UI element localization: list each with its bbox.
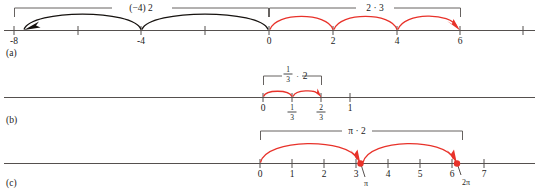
panel-a-label-2: 2 [331,36,336,46]
panel-b-frac1-denominator: 3 [290,113,294,122]
panel-b-expression: 1 3 · 2 [284,65,308,84]
panel-c-label-twopi: 2π [462,178,470,187]
panel-c-label-3: 3 [354,169,359,179]
number-line-multiplication-figure: -8 -4 0 2 4 6 (−4) 2 2 · 3 [0,0,539,189]
panel-a-red-arc-hop-2 [334,16,397,29]
panel-a-label-0: 0 [267,36,272,46]
panel-a-label-4: 4 [395,36,400,46]
panel-c-expression: π · 2 [348,126,366,136]
panel-c-label-6: 6 [450,169,455,179]
panel-c-dot-twopi [454,160,460,166]
panel-b-frac2-denominator: 3 [319,113,323,122]
panel-c-label-2: 2 [322,169,327,179]
panel-b-frac2-numerator: 2 [319,103,323,112]
panel-c-label-pi: π [364,179,368,188]
panel-c-label-0: 0 [258,169,263,179]
panel-b-expr-numerator: 1 [286,65,290,74]
panel-b-label-0: 0 [261,103,266,113]
panel-a-label-neg8: -8 [10,36,18,46]
panel-b-label-two-thirds: 2 3 [317,103,326,122]
panel-c-label-7: 7 [482,169,487,179]
panel-a-label-6: 6 [458,36,463,46]
panel-c-red-arc-hop-2 [363,144,454,163]
panel-c: 0 1 2 3 4 5 6 7 π 2π π · 2 [4,126,535,188]
panel-b-label-one-third: 1 3 [288,103,297,122]
panel-b-bracket [264,76,322,85]
panel-c-label-1: 1 [290,169,295,179]
panel-b-caption: (b) [6,115,17,125]
panel-a-arc-hop-2 [24,14,141,29]
panel-a-label-neg4: -4 [137,36,145,46]
panel-b-red-arc-hop-1 [264,91,293,96]
panel-b-expr-denominator: 3 [286,75,290,84]
panel-a-arrowhead-red [447,19,460,31]
panel-c-twopi-leader [458,166,461,175]
panel-b-frac1-numerator: 1 [290,103,294,112]
panel-a: -8 -4 0 2 4 6 (−4) 2 2 · 3 [4,3,535,46]
panel-c-label-5: 5 [418,169,423,179]
panel-b-expr-count: 2 [303,71,308,81]
panel-c-pi-leader [362,166,366,177]
panel-c-caption: (c) [6,178,17,188]
panel-a-red-arc-hop-1 [270,16,333,29]
panel-c-red-arc-hop-1 [261,144,358,163]
panel-b-arrowhead-red [313,89,322,98]
figure-canvas: -8 -4 0 2 4 6 (−4) 2 2 · 3 [0,0,539,189]
panel-b-label-1: 1 [348,103,353,113]
panel-a-caption: (a) [6,48,17,58]
panel-b-red-arc-hop-2 [293,91,318,97]
panel-b: 0 1 1 3 2 3 1 3 · 2 [4,65,535,122]
panel-b-expr-dot: · [296,72,299,81]
panel-a-expression-red: 2 · 3 [366,3,384,13]
panel-c-label-4: 4 [386,169,391,179]
panel-a-expression-black: (−4) 2 [129,3,153,14]
panel-a-red-arc-hop-3 [398,16,457,29]
